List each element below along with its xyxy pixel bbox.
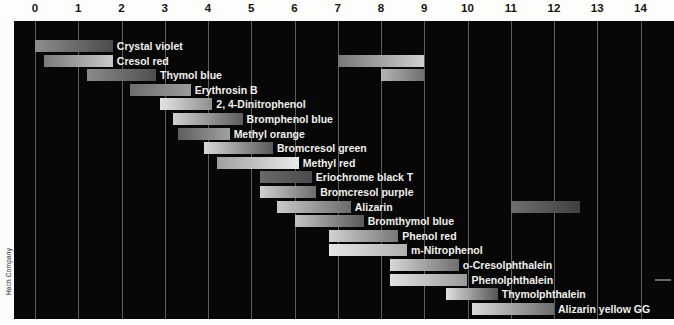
indicator-range-bar [390, 259, 459, 271]
axis-tick-label: 2 [118, 1, 124, 15]
indicator-range-bar [260, 171, 312, 183]
indicator-range-bar [173, 113, 242, 125]
axis-tick-label: 13 [591, 1, 604, 15]
axis-tick-label: 4 [205, 1, 211, 15]
ph-indicator-range-chart: 01234567891011121314 Crystal violetCreso… [0, 0, 674, 325]
credit-label: Hach Company [5, 242, 12, 302]
axis-tick-label: 3 [162, 1, 168, 15]
indicator-range-bar [338, 55, 425, 67]
indicator-range-bar [295, 215, 364, 227]
indicator-range-bar [35, 40, 113, 52]
axis-tick-label: 11 [505, 1, 517, 15]
axis-tick-label: 7 [335, 1, 341, 15]
indicator-range-bar [130, 84, 191, 96]
axis-tick-label: 1 [75, 1, 81, 15]
axis-tick-label: 8 [378, 1, 384, 15]
indicator-range-bar [472, 303, 554, 315]
indicator-range-bar [44, 55, 113, 67]
indicator-range-bar [204, 142, 273, 154]
axis-tick-label: 0 [32, 1, 38, 15]
indicator-range-bar [390, 274, 468, 286]
edge-tick-mark [655, 279, 671, 281]
indicator-range-bar [511, 201, 580, 213]
axis-tick-label: 5 [248, 1, 254, 15]
indicator-row: Alizarin yellow GG [14, 301, 674, 318]
indicator-range-bar [329, 230, 398, 242]
indicator-range-bar [87, 69, 156, 81]
axis-tick-label: 9 [421, 1, 427, 15]
axis-tick-label: 10 [461, 1, 474, 15]
indicator-label: Alizarin yellow GG [554, 301, 650, 318]
axis-tick-label: 12 [548, 1, 561, 15]
indicator-range-bar [217, 157, 299, 169]
plot-area: Crystal violetCresol redThymol blueEryth… [14, 21, 674, 319]
indicator-range-bar [277, 201, 351, 213]
ph-axis: 01234567891011121314 [0, 0, 674, 21]
indicator-range-bar [178, 128, 230, 140]
indicator-range-bar [160, 98, 212, 110]
indicator-range-bar [260, 186, 316, 198]
indicator-range-bar [446, 288, 498, 300]
indicator-range-bar [329, 244, 407, 256]
indicator-range-bar [381, 69, 424, 81]
axis-tick-label: 6 [291, 1, 297, 15]
axis-tick-label: 14 [634, 1, 647, 15]
